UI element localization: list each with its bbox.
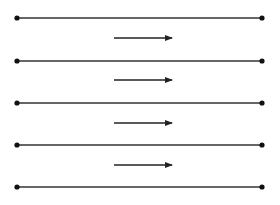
right-endpoint-dot-icon: [259, 58, 264, 63]
right-endpoint-dot-icon: [259, 184, 264, 189]
left-endpoint-dot-icon: [14, 100, 19, 105]
right-endpoint-dot-icon: [259, 100, 264, 105]
line-segment: [14, 142, 264, 147]
left-endpoint-dot-icon: [14, 184, 19, 189]
arrows-group: [114, 38, 172, 165]
line-segment: [14, 58, 264, 63]
line-segment: [14, 15, 264, 20]
left-endpoint-dot-icon: [14, 58, 19, 63]
right-endpoint-dot-icon: [259, 142, 264, 147]
line-segment: [14, 184, 264, 189]
parallel-lines-diagram: [0, 0, 280, 205]
left-endpoint-dot-icon: [14, 15, 19, 20]
right-endpoint-dot-icon: [259, 15, 264, 20]
lines-group: [14, 15, 264, 189]
line-segment: [14, 100, 264, 105]
left-endpoint-dot-icon: [14, 142, 19, 147]
